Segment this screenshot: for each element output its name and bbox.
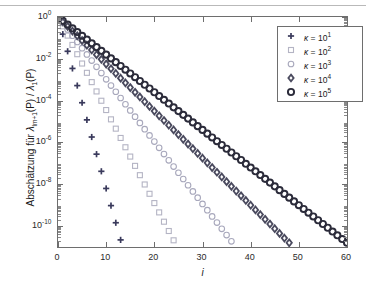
- y-minor-tick: [58, 227, 61, 228]
- y-minor-tick: [58, 132, 61, 133]
- y-minor-tick: [344, 105, 347, 106]
- y-tick-label-1e0: 100: [0, 11, 54, 21]
- y-minor-tick: [58, 104, 61, 105]
- y-minor-tick: [58, 91, 61, 92]
- y-minor-tick: [58, 178, 61, 179]
- y-minor-tick: [344, 109, 347, 110]
- y-minor-tick: [58, 67, 61, 68]
- y-minor-tick: [58, 20, 61, 21]
- y-minor-tick: [344, 157, 347, 158]
- top-divider-rule: [0, 5, 366, 6]
- x-tick-50: [299, 17, 300, 22]
- y-minor-tick: [344, 186, 347, 187]
- y-minor-tick: [344, 132, 347, 133]
- x-tick-label-50: 50: [293, 252, 303, 262]
- y-minor-tick: [58, 207, 61, 208]
- y-minor-tick: [344, 199, 347, 200]
- y-minor-tick: [58, 28, 61, 29]
- x-tick-60: [347, 17, 348, 22]
- figure-root: 0102030405060 100 10-2 10-4 10-6 10-8 10…: [0, 0, 366, 291]
- y-minor-tick: [344, 168, 347, 169]
- legend-label-3: κ = 103: [304, 61, 331, 71]
- y-minor-tick: [58, 82, 61, 83]
- y-minor-tick: [58, 109, 61, 110]
- y-minor-tick: [58, 62, 61, 63]
- y-minor-tick: [344, 206, 347, 207]
- x-axis-title: i: [57, 267, 348, 278]
- y-minor-tick: [344, 211, 347, 212]
- y-minor-tick: [58, 115, 61, 116]
- x-tick-30: [203, 17, 204, 22]
- y-minor-tick: [344, 19, 347, 20]
- x-tick-40: [251, 242, 252, 247]
- y-minor-tick: [58, 44, 61, 45]
- y-minor-tick: [344, 126, 347, 127]
- x-tick-label-40: 40: [245, 252, 255, 262]
- y-minor-tick: [344, 144, 347, 145]
- y-minor-tick: [344, 237, 347, 238]
- y-minor-tick: [58, 157, 61, 158]
- y-minor-tick: [58, 189, 61, 190]
- x-tick-10: [106, 17, 107, 22]
- legend-box: κ = 101κ = 102κ = 103κ = 104κ = 105: [277, 26, 363, 102]
- y-minor-tick: [58, 168, 61, 169]
- y-minor-tick: [344, 191, 347, 192]
- y-minor-tick: [344, 195, 347, 196]
- y-minor-tick: [344, 128, 347, 129]
- y-minor-tick: [58, 53, 61, 54]
- y-minor-tick: [58, 214, 61, 215]
- y-minor-tick: [58, 164, 61, 165]
- y-minor-tick: [58, 60, 61, 61]
- y-minor-tick: [58, 41, 61, 42]
- y-minor-tick: [344, 165, 347, 166]
- y-minor-tick: [58, 151, 61, 152]
- y-minor-tick: [58, 232, 61, 233]
- y-minor-tick: [58, 88, 61, 89]
- y-minor-tick: [58, 128, 61, 129]
- y-minor-tick: [58, 107, 61, 108]
- y-minor-tick: [344, 207, 347, 208]
- x-tick-20: [154, 242, 155, 247]
- y-minor-tick: [58, 193, 61, 194]
- y-minor-tick: [58, 149, 61, 150]
- y-minor-tick: [344, 123, 347, 124]
- y-minor-tick: [58, 73, 61, 74]
- y-minor-tick: [58, 112, 61, 113]
- y-minor-tick: [344, 130, 347, 131]
- y-minor-tick: [344, 18, 347, 19]
- y-minor-tick: [344, 185, 347, 186]
- x-tick-0: [58, 242, 59, 247]
- y-minor-tick: [344, 22, 347, 23]
- y-minor-tick: [58, 40, 61, 41]
- y-minor-tick: [58, 86, 61, 87]
- y-minor-tick: [58, 70, 61, 71]
- x-tick-label-60: 60: [341, 252, 351, 262]
- y-minor-tick: [58, 81, 61, 82]
- y-minor-tick: [344, 167, 347, 168]
- legend-label-1: κ = 101: [304, 33, 331, 43]
- y-minor-tick: [58, 146, 61, 147]
- y-minor-tick: [58, 237, 61, 238]
- legend-label-4: κ = 104: [304, 75, 331, 85]
- y-minor-tick: [58, 65, 61, 66]
- y-minor-tick: [58, 136, 61, 137]
- y-minor-tick: [58, 123, 61, 124]
- y-minor-tick: [344, 178, 347, 179]
- y-minor-tick: [58, 208, 61, 209]
- y-minor-tick: [58, 25, 61, 26]
- y-minor-tick: [344, 232, 347, 233]
- x-tick-40: [251, 17, 252, 22]
- y-minor-tick: [58, 83, 61, 84]
- y-minor-tick: [344, 208, 347, 209]
- legend-item-5[interactable]: κ = 105: [278, 87, 362, 101]
- legend-label-5: κ = 105: [304, 89, 331, 99]
- y-minor-tick: [58, 22, 61, 23]
- y-minor-tick: [58, 103, 61, 104]
- y-minor-tick: [58, 43, 61, 44]
- y-minor-tick: [58, 210, 61, 211]
- y-minor-tick: [344, 112, 347, 113]
- x-tick-20: [154, 17, 155, 22]
- y-minor-tick: [58, 49, 61, 50]
- y-minor-tick: [58, 39, 61, 40]
- x-tick-label-10: 10: [100, 252, 110, 262]
